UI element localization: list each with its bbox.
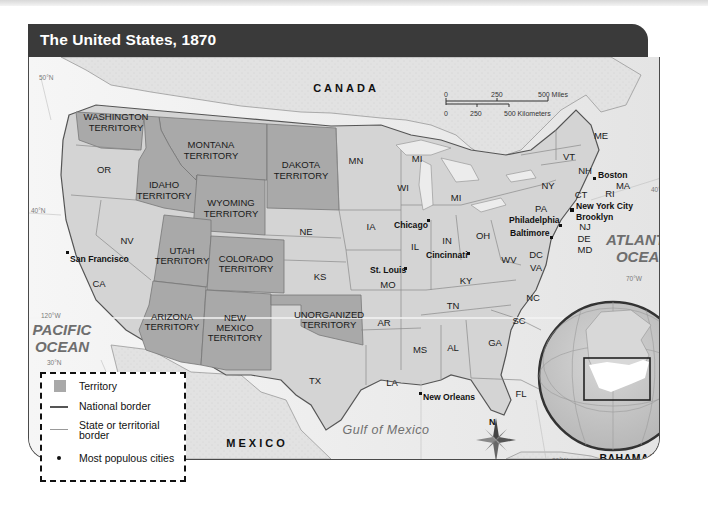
state-ar: AR bbox=[377, 317, 390, 328]
lat-30-label: 30°N bbox=[47, 359, 62, 366]
state-oh: OH bbox=[476, 230, 490, 241]
city-cincinnati: Cincinnati bbox=[426, 250, 468, 260]
montana-label-2: TERRITORY bbox=[184, 150, 239, 161]
lon-70-label: 70°W bbox=[626, 275, 643, 282]
state-nh: NH bbox=[578, 165, 592, 176]
gulf-of-mexico-label: Gulf of Mexico bbox=[343, 423, 430, 437]
idaho-label-1: IDAHO bbox=[149, 179, 179, 190]
state-ne: NE bbox=[299, 226, 312, 237]
scale-km-250: 250 bbox=[470, 110, 482, 117]
state-mo: MO bbox=[380, 279, 395, 290]
city-brooklyn: Brooklyn bbox=[576, 212, 613, 222]
state-sc: SC bbox=[512, 315, 525, 326]
page-top-shadow bbox=[0, 0, 708, 6]
wyoming-label-1: WYOMING bbox=[207, 197, 255, 208]
legend-label: Most populous cities bbox=[79, 452, 174, 464]
lon-80-label: 80°W bbox=[552, 457, 569, 459]
state-vt: VT bbox=[563, 151, 575, 162]
state-ms: MS bbox=[413, 344, 427, 355]
city-new-york: New York City bbox=[576, 201, 633, 211]
state-tx: TX bbox=[309, 375, 322, 386]
mexico-label: MEXICO bbox=[226, 437, 287, 449]
national-border-line-icon bbox=[50, 406, 68, 408]
state-ma: MA bbox=[616, 180, 631, 191]
unorganized-label-2: TERRITORY bbox=[302, 319, 357, 330]
state-mn: MN bbox=[349, 155, 364, 166]
state-pa: PA bbox=[535, 203, 548, 214]
state-ia: IA bbox=[367, 221, 377, 232]
state-de: DE bbox=[577, 233, 590, 244]
state-la: LA bbox=[386, 377, 398, 388]
lat-40-west-label: 40°N bbox=[31, 207, 46, 214]
state-ky: KY bbox=[460, 275, 473, 286]
scale-km-0: 0 bbox=[444, 110, 448, 117]
state-ri: RI bbox=[605, 188, 615, 199]
legend-label: Territory bbox=[79, 380, 117, 392]
legend-item-state-border: State or territorial border bbox=[50, 420, 160, 440]
bahamas-label: BAHAMAS bbox=[599, 452, 656, 459]
state-ny: NY bbox=[541, 180, 555, 191]
state-wi: WI bbox=[397, 182, 409, 193]
map-legend: Territory National border State or terri… bbox=[40, 372, 186, 482]
state-mi: MI bbox=[451, 192, 462, 203]
state-ct: CT bbox=[575, 189, 588, 200]
scale-miles-500: 500 Miles bbox=[538, 91, 568, 98]
state-in: IN bbox=[442, 235, 452, 246]
idaho-label-2: TERRITORY bbox=[137, 190, 192, 201]
city-st-louis: St. Louis bbox=[370, 265, 407, 275]
pacific-label-1: PACIFIC bbox=[33, 321, 93, 338]
lat-50-label: 50°N bbox=[39, 74, 54, 81]
state-nj: NJ bbox=[579, 221, 591, 232]
scale-miles-250: 250 bbox=[491, 91, 503, 98]
state-dc: DC bbox=[529, 249, 543, 260]
city-boston: Boston bbox=[598, 170, 628, 180]
city-philadelphia: Philadelphia bbox=[509, 215, 560, 225]
dakota-label-2: TERRITORY bbox=[274, 170, 329, 181]
canada-label: CANADA bbox=[313, 82, 379, 94]
state-me: ME bbox=[594, 130, 608, 141]
legend-item-territory: Territory bbox=[50, 380, 117, 392]
state-ca: CA bbox=[92, 278, 106, 289]
colorado-label-2: TERRITORY bbox=[219, 263, 274, 274]
city-san-francisco: San Francisco bbox=[70, 254, 129, 264]
state-fl: FL bbox=[515, 388, 526, 399]
state-mi-upper: MI bbox=[412, 153, 423, 164]
territory-swatch-icon bbox=[54, 380, 66, 392]
state-border-line-icon bbox=[50, 429, 68, 430]
state-md: MD bbox=[578, 244, 593, 255]
arizona-label-2: TERRITORY bbox=[145, 321, 200, 332]
new-mexico-label-3: TERRITORY bbox=[208, 332, 263, 343]
legend-label: border bbox=[79, 429, 109, 441]
city-chicago: Chicago bbox=[394, 220, 428, 230]
washington-label-1: WASHINGTON bbox=[84, 111, 149, 122]
legend-item-national-border: National border bbox=[50, 400, 151, 412]
state-tn: TN bbox=[447, 300, 460, 311]
lat-40-east-label: 40°N bbox=[651, 186, 659, 193]
washington-label-2: TERRITORY bbox=[89, 122, 144, 133]
legend-label: National border bbox=[79, 400, 151, 412]
scale-miles-0: 0 bbox=[444, 91, 448, 98]
city-baltimore: Baltimore bbox=[510, 228, 550, 238]
pacific-label-2: OCEAN bbox=[35, 338, 90, 355]
legend-item-cities: Most populous cities bbox=[50, 452, 174, 464]
atlantic-label-2: OCEAN bbox=[616, 248, 659, 265]
state-wv: WV bbox=[501, 254, 517, 265]
state-ga: GA bbox=[488, 337, 502, 348]
state-va: VA bbox=[530, 262, 543, 273]
state-ks: KS bbox=[314, 271, 327, 282]
state-al: AL bbox=[447, 342, 459, 353]
montana-label-1: MONTANA bbox=[188, 139, 235, 150]
wyoming-label-2: TERRITORY bbox=[204, 208, 259, 219]
state-il: IL bbox=[411, 241, 419, 252]
atlantic-label-1: ATLANTIC bbox=[605, 231, 659, 248]
map-title: The United States, 1870 bbox=[40, 31, 216, 49]
compass-north-label: N bbox=[489, 417, 496, 427]
lon-120-label: 120°W bbox=[41, 312, 61, 319]
state-or: OR bbox=[97, 164, 111, 175]
city-dot-icon bbox=[57, 456, 61, 460]
dakota-label-1: DAKOTA bbox=[282, 159, 321, 170]
city-new-orleans: New Orleans bbox=[423, 392, 475, 402]
scale-km-500: 500 Kilometers bbox=[504, 110, 551, 117]
state-nc: NC bbox=[526, 292, 540, 303]
utah-label-2: TERRITORY bbox=[155, 255, 210, 266]
